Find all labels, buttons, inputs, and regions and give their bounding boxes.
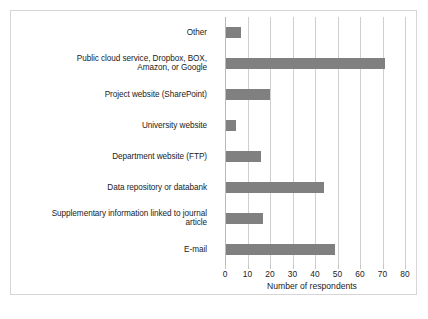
x-axis-tick-label: 50 (333, 269, 342, 280)
category-axis-label: Project website (SharePoint) (15, 90, 207, 100)
category-axis-label: University website (15, 121, 207, 131)
gridline (383, 17, 384, 265)
x-axis-tick-label: 70 (378, 269, 387, 280)
bar (226, 151, 261, 162)
x-axis-tick-label: 40 (310, 269, 319, 280)
x-axis-tick-label: 20 (265, 269, 274, 280)
bar (226, 120, 236, 131)
gridline (315, 17, 316, 265)
x-axis-tick-label: 30 (288, 269, 297, 280)
chart-figure-frame: OtherPublic cloud service, Dropbox, BOX,… (10, 10, 417, 295)
horizontal-bar-chart: OtherPublic cloud service, Dropbox, BOX,… (11, 11, 416, 294)
category-axis-label: Supplementary information linked to jour… (15, 209, 207, 228)
bar (226, 27, 241, 38)
category-axis-label: Data repository or databank (15, 183, 207, 193)
gridline (248, 17, 249, 265)
category-axis-labels: OtherPublic cloud service, Dropbox, BOX,… (15, 17, 207, 265)
category-axis-label: Department website (FTP) (15, 152, 207, 162)
x-axis-tick-label: 0 (223, 269, 228, 280)
category-axis-label: Public cloud service, Dropbox, BOX, Amaz… (15, 54, 207, 73)
x-axis-tick-label: 10 (243, 269, 252, 280)
gridline (360, 17, 361, 265)
bar (226, 89, 270, 100)
x-axis-tick-label: 60 (355, 269, 364, 280)
x-axis-title: Number of respondents (215, 281, 409, 291)
plot-area (215, 17, 409, 265)
bar (226, 244, 335, 255)
gridline (405, 17, 406, 265)
gridline (293, 17, 294, 265)
bar (226, 58, 385, 69)
category-axis-label: E-mail (15, 245, 207, 255)
bar (226, 213, 263, 224)
x-axis-tick-label: 80 (400, 269, 409, 280)
gridline (338, 17, 339, 265)
gridline (270, 17, 271, 265)
axis-zero-line (225, 17, 226, 265)
category-axis-label: Other (15, 28, 207, 38)
bar (226, 182, 324, 193)
